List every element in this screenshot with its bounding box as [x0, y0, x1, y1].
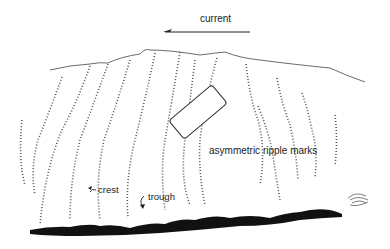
crest-label: crest	[98, 185, 119, 195]
surface-outline	[50, 50, 365, 83]
trough-label: trough	[148, 192, 175, 202]
cross-section-sketch-icon	[348, 194, 368, 206]
ripple-crests	[21, 52, 337, 225]
sediment-base	[30, 209, 342, 236]
current-arrow-icon	[163, 29, 250, 32]
ripple-inset-box	[169, 85, 227, 139]
ripple-marks-diagram: current asymmetric ripple marks crest tr…	[0, 0, 390, 249]
diagram-canvas	[0, 0, 390, 249]
ripple-marks-label: asymmetric ripple marks	[209, 146, 317, 156]
current-label: current	[200, 14, 231, 24]
